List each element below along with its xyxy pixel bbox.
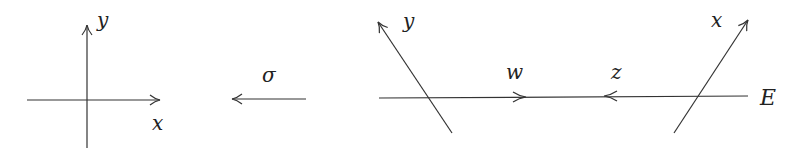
left-axes: y x [27, 8, 163, 148]
y-axis-label: y [96, 8, 109, 32]
arrowhead-left-z [604, 91, 617, 101]
sigma-label: σ [262, 63, 277, 87]
z-label: z [610, 60, 622, 84]
diagram: y x σ w z E y x [0, 0, 800, 150]
oblique-line-y [378, 22, 452, 133]
right-figure: w z E y x [378, 8, 776, 133]
oblique-line-x [674, 20, 748, 133]
w-label: w [506, 60, 523, 84]
x-axis-label: x [152, 111, 163, 135]
oblique-y-label: y [402, 9, 415, 33]
diagram-canvas: y x σ w z E y x [0, 0, 800, 150]
e-label: E [759, 85, 776, 110]
sigma-map-arrow: σ [232, 63, 306, 99]
line-e [379, 96, 748, 98]
oblique-x-label: x [711, 8, 722, 32]
